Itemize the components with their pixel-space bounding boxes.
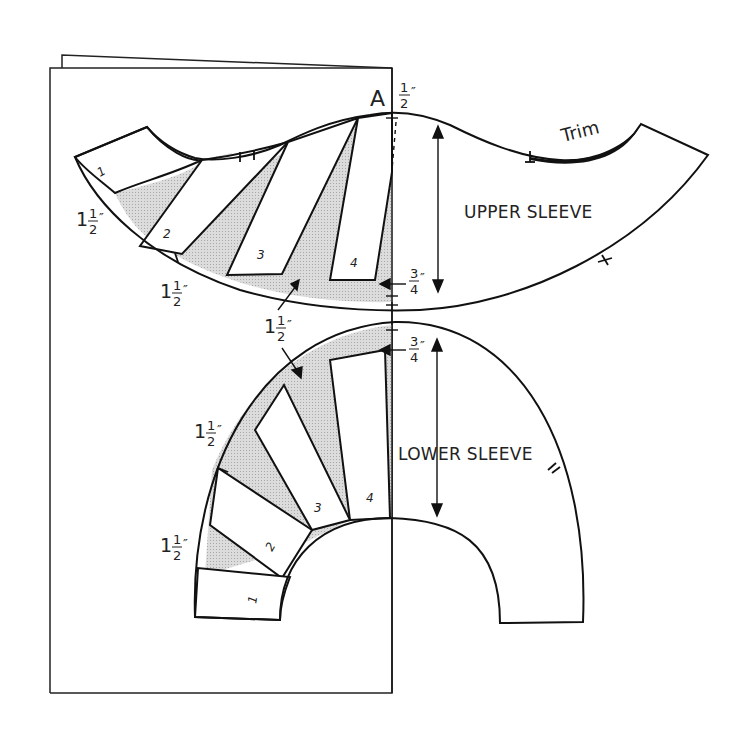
svg-text:″: ″: [217, 422, 222, 437]
trim-label: Trim: [558, 116, 601, 146]
svg-text:1: 1: [207, 418, 215, 433]
svg-text:″: ″: [411, 84, 416, 99]
svg-text:1: 1: [76, 208, 88, 230]
svg-text:″: ″: [183, 536, 188, 551]
svg-text:″: ″: [287, 317, 292, 332]
upper-section-3-label: 3: [257, 248, 265, 262]
svg-text:1: 1: [264, 315, 276, 337]
svg-text:2: 2: [207, 434, 215, 449]
svg-text:4: 4: [410, 350, 418, 365]
upper-sleeve-title: UPPER SLEEVE: [464, 202, 593, 222]
pattern-diagram: A 1 2 ″ UPPER SLEEVE Trim LOWER SLEEVE 1…: [0, 0, 744, 732]
lower-section-3-label: 3: [314, 501, 322, 515]
lower-seam-allowance: 3 4 ″: [409, 334, 425, 365]
middle-measure: 1 1 2 ″: [264, 313, 292, 344]
upper-seam-allowance: 3 4 ″: [409, 266, 425, 297]
lower-sleeve-title: LOWER SLEEVE: [398, 444, 533, 464]
lower-measure-2: 1 1 2 ″: [160, 532, 188, 563]
svg-text:″: ″: [420, 270, 425, 285]
svg-text:1: 1: [173, 278, 181, 293]
svg-text:3: 3: [410, 334, 418, 349]
svg-text:″: ″: [420, 338, 425, 353]
top-half-inch: 1 2 ″: [399, 80, 416, 111]
svg-text:1: 1: [89, 206, 97, 221]
svg-text:4: 4: [410, 282, 418, 297]
svg-text:1: 1: [160, 534, 172, 556]
lower-sleeve: [195, 322, 584, 623]
svg-text:3: 3: [410, 266, 418, 281]
point-a-label: A: [370, 86, 385, 111]
lower-section-1: [195, 568, 290, 620]
svg-text:1: 1: [194, 420, 206, 442]
svg-text:1: 1: [400, 80, 408, 95]
svg-text:2: 2: [400, 96, 408, 111]
lower-section-4-label: 4: [366, 491, 374, 505]
svg-text:1: 1: [173, 532, 181, 547]
lower-measure-1: 1 1 2 ″: [194, 418, 222, 449]
svg-text:1: 1: [160, 280, 172, 302]
upper-measure-1: 1 1 2 ″: [76, 206, 104, 237]
svg-text:2: 2: [173, 548, 181, 563]
upper-section-2-label: 2: [163, 227, 171, 241]
svg-text:2: 2: [89, 222, 97, 237]
svg-text:2: 2: [173, 294, 181, 309]
svg-text:2: 2: [277, 329, 285, 344]
upper-measure-2: 1 1 2 ″: [160, 278, 188, 309]
svg-text:1: 1: [277, 313, 285, 328]
upper-section-4-label: 4: [350, 256, 358, 270]
svg-text:″: ″: [183, 282, 188, 297]
svg-text:″: ″: [99, 210, 104, 225]
